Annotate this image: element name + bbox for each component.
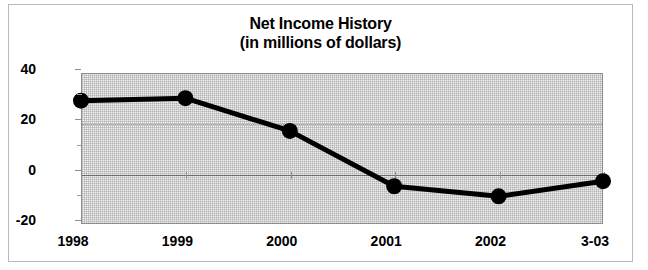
y-axis-label-20: 20 (8, 112, 36, 126)
x-axis-label-2001: 2001 (371, 233, 402, 249)
y-minor-tick-10 (77, 145, 82, 146)
x-tick-3-03 (604, 172, 605, 179)
y-tick--20 (75, 220, 81, 221)
x-tick-1999 (186, 172, 187, 179)
y-tick-0 (75, 170, 81, 171)
x-axis-label-2000: 2000 (266, 233, 297, 249)
x-axis-label-3-03: 3-03 (581, 233, 609, 249)
zero-line (82, 175, 602, 176)
chart-title-line-1: Net Income History (9, 14, 632, 33)
y-axis-label--20: -20 (8, 213, 36, 227)
x-tick-2001 (395, 172, 396, 179)
y-axis-label-40: 40 (8, 62, 36, 76)
chart-title: Net Income History (in millions of dolla… (9, 14, 632, 52)
chart-title-line-2: (in millions of dollars) (9, 33, 632, 52)
y-tick-20 (75, 119, 81, 120)
y-axis-label-0: 0 (8, 163, 36, 177)
x-tick-2002 (500, 172, 501, 179)
x-axis-label-2002: 2002 (475, 233, 506, 249)
x-tick-2000 (291, 172, 292, 179)
y-tick-40 (75, 69, 81, 70)
y-minor-tick--10 (77, 195, 82, 196)
chart-frame: Net Income History (in millions of dolla… (8, 4, 633, 262)
x-axis-label-1999: 1999 (162, 233, 193, 249)
plot-area (81, 73, 603, 224)
gridline-20 (82, 124, 602, 125)
y-minor-tick-30 (77, 94, 82, 95)
x-axis-label-1998: 1998 (57, 233, 88, 249)
